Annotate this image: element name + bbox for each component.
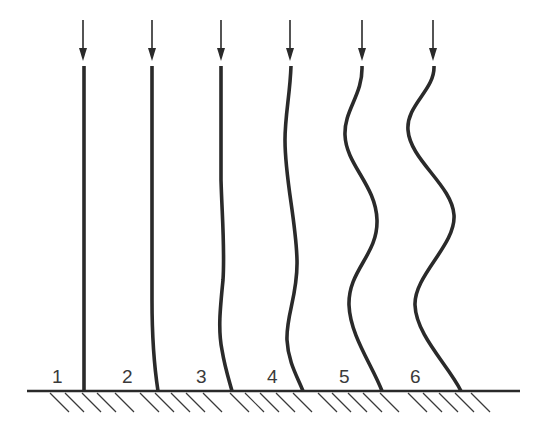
buckling-modes-diagram xyxy=(0,0,537,429)
down-arrow-icon xyxy=(429,20,437,61)
down-arrow-icon xyxy=(79,20,87,61)
down-arrow-icon xyxy=(358,20,366,61)
column-5 xyxy=(345,66,382,391)
column-6 xyxy=(408,66,461,391)
fixed-ground-support xyxy=(27,391,520,412)
load-arrows xyxy=(79,20,437,61)
fixed-support-hatch-icon xyxy=(50,393,490,412)
column-label: 6 xyxy=(410,366,421,388)
column-label: 1 xyxy=(52,366,63,388)
column-label: 2 xyxy=(122,366,133,388)
column-label: 5 xyxy=(339,366,350,388)
column-4 xyxy=(285,66,303,391)
down-arrow-icon xyxy=(217,20,225,61)
column-label: 3 xyxy=(196,366,207,388)
column-label: 4 xyxy=(267,366,278,388)
columns xyxy=(84,66,461,391)
column-3 xyxy=(220,66,232,391)
column-2 xyxy=(152,66,158,391)
down-arrow-icon xyxy=(148,20,156,61)
down-arrow-icon xyxy=(286,20,294,61)
